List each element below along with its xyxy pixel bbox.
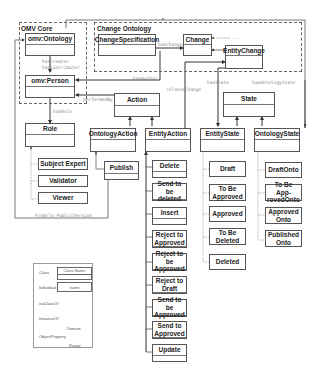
legend-subclass-label: isaClassOf — [39, 301, 58, 306]
class-omv-ontology[interactable]: omv:Ontology — [25, 33, 75, 56]
package-label-from-to: From/To PublicVersion — [35, 213, 92, 218]
class-ontology-action[interactable]: OntologyAction — [90, 128, 136, 152]
class-change-specification[interactable]: ChangeSpecification — [98, 34, 156, 56]
individual-to-be-approved-onto[interactable]: To Be App-rovedOnto — [265, 184, 302, 201]
legend-class-name: Class Name — [58, 268, 91, 275]
individual-name: To Be Deleted — [210, 229, 245, 244]
individual-name: Draft — [210, 162, 245, 176]
class-reject-to-be-approved[interactable]: Reject to be Approved — [152, 253, 187, 271]
class-publish[interactable]: Publish — [104, 161, 139, 180]
individual-published-onto[interactable]: Published Onto — [265, 230, 302, 247]
package-label-omv-core: OMV Core — [21, 25, 52, 32]
individual-name: Published Onto — [266, 231, 301, 246]
individual-name: Approved Onto — [266, 208, 301, 223]
individual-to-be-approved[interactable]: To Be Approved — [209, 184, 246, 201]
class-reject-to-draft[interactable]: Reject to Draft — [152, 276, 187, 294]
class-name: omv:Person — [26, 76, 74, 87]
individual-draft-onto[interactable]: DraftOnto — [265, 162, 302, 178]
individual-draft[interactable]: Draft — [209, 161, 246, 177]
class-delete[interactable]: Delete — [152, 160, 187, 178]
class-name: EntityChange — [226, 46, 262, 56]
relation-performed-by: performedBy — [83, 97, 113, 102]
class-name: Reject to Draft — [153, 277, 186, 293]
class-reject-to-approved[interactable]: Reject to Approved — [152, 230, 187, 248]
individual-approved-onto[interactable]: Approved Onto — [265, 207, 302, 224]
class-entity-state[interactable]: EntityState — [200, 128, 245, 152]
class-role[interactable]: Role — [25, 123, 75, 147]
individual-approved[interactable]: Approved — [209, 206, 246, 222]
individual-name: Validator — [39, 176, 87, 186]
legend-individual-label: Individual — [39, 285, 56, 290]
class-action[interactable]: Action — [114, 93, 160, 117]
legend-domain: Domain — [67, 326, 81, 331]
relation-has-change: hasChange — [158, 42, 182, 47]
relation-has-ontology-state: hasOntologyState — [252, 80, 295, 85]
class-name: EntityAction — [146, 129, 190, 140]
class-name: Delete — [153, 161, 186, 172]
individual-name: Approved — [210, 207, 245, 221]
relation-has-author: hasAuthor — [133, 76, 157, 81]
class-insert[interactable]: Insert — [152, 207, 187, 225]
class-name: Insert — [153, 208, 186, 219]
individual-name: DraftOnto — [266, 163, 301, 177]
class-name: Send to be deleted — [153, 184, 186, 200]
relation-has-creator: hasCreator — [42, 59, 69, 64]
class-change[interactable]: Change — [183, 34, 212, 56]
class-name: Change — [184, 35, 211, 45]
class-state[interactable]: State — [223, 92, 275, 117]
class-name: State — [224, 93, 274, 105]
legend-range: Range — [69, 343, 81, 348]
legend-object-property-label: ObjectProperty — [39, 334, 66, 339]
class-name: Reject to be Approved — [153, 254, 186, 270]
package-label-change-ontology: Change Ontology — [97, 25, 151, 32]
individual-name: Deleted — [210, 255, 245, 269]
class-name: EntityState — [201, 129, 244, 140]
legend-instance-label: InstanceOf — [39, 316, 58, 321]
class-name: omv:Ontology — [26, 34, 74, 45]
class-name: ChangeSpecification — [99, 35, 155, 45]
class-name: Send to Approved — [153, 322, 186, 338]
class-send-to-be-deleted[interactable]: Send to be deleted — [152, 183, 187, 201]
legend: Class Class Name Individual name isaClas… — [33, 263, 93, 348]
class-name: Reject to Approved — [153, 231, 186, 247]
class-entity-change[interactable]: EntityChange — [225, 45, 263, 69]
individual-validator[interactable]: Validator — [38, 175, 88, 187]
class-name: Action — [115, 94, 159, 106]
class-ontology-state[interactable]: OntologyState — [254, 128, 300, 152]
relation-ellipsis: ... — [232, 35, 240, 40]
legend-individual-name: name — [69, 285, 79, 290]
class-entity-action[interactable]: EntityAction — [145, 128, 191, 152]
class-name: Send to be Approved — [153, 300, 186, 316]
individual-viewer[interactable]: Viewer — [38, 192, 88, 204]
legend-class-box: Class Name — [57, 267, 92, 280]
relation-has-state: hasState — [207, 80, 229, 85]
individual-name: To Be Approved — [210, 185, 245, 200]
legend-class-label: Class — [39, 270, 49, 275]
class-name: Update — [153, 345, 186, 356]
relation-related-change: relatedChange — [166, 87, 201, 92]
relation-has-role: hasRole — [53, 109, 72, 114]
class-name: OntologyState — [255, 129, 299, 140]
individual-name: Subject Expert — [39, 159, 87, 169]
individual-deleted[interactable]: Deleted — [209, 254, 246, 270]
class-send-to-approved[interactable]: Send to Approved — [152, 321, 187, 339]
class-name: OntologyAction — [91, 129, 135, 140]
class-omv-person[interactable]: omv:Person — [25, 75, 75, 98]
legend-individual-box: name — [57, 282, 92, 292]
class-name: Role — [26, 124, 74, 135]
class-name: Publish — [105, 162, 138, 174]
individual-name: Viewer — [39, 193, 87, 203]
individual-subject-expert[interactable]: Subject Expert — [38, 158, 88, 170]
individual-name: To Be App-rovedOnto — [266, 185, 301, 200]
relation-has-contributor: hasContributor — [42, 65, 80, 70]
class-send-to-be-approved[interactable]: Send to be Approved — [152, 299, 187, 317]
class-update[interactable]: Update — [152, 344, 187, 362]
individual-to-be-deleted[interactable]: To Be Deleted — [209, 228, 246, 245]
